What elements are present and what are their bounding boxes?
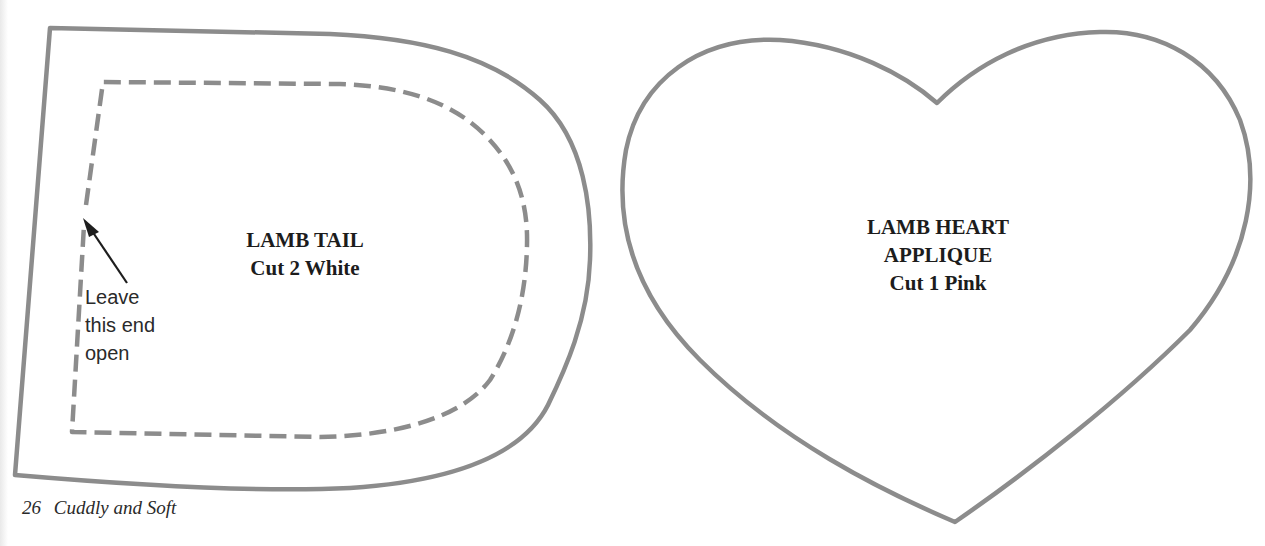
heart-instruction: Cut 1 Pink bbox=[823, 269, 1053, 297]
book-title: Cuddly and Soft bbox=[54, 497, 176, 518]
note-line-1: Leave bbox=[85, 283, 155, 311]
pattern-page: LAMB TAIL Cut 2 White Leave this end ope… bbox=[0, 0, 1265, 546]
page-number: 26 bbox=[22, 497, 41, 518]
note-line-3: open bbox=[85, 339, 155, 367]
heart-title-line2: APPLIQUE bbox=[823, 241, 1053, 269]
open-end-note: Leave this end open bbox=[85, 283, 155, 367]
arrow-icon bbox=[90, 228, 127, 283]
pattern-shapes bbox=[0, 0, 1265, 546]
tail-label: LAMB TAIL Cut 2 White bbox=[205, 226, 405, 282]
note-line-2: this end bbox=[85, 311, 155, 339]
heart-label: LAMB HEART APPLIQUE Cut 1 Pink bbox=[823, 213, 1053, 297]
tail-instruction: Cut 2 White bbox=[205, 254, 405, 282]
page-footer: 26 Cuddly and Soft bbox=[22, 497, 176, 519]
heart-title-line1: LAMB HEART bbox=[823, 213, 1053, 241]
tail-title: LAMB TAIL bbox=[205, 226, 405, 254]
